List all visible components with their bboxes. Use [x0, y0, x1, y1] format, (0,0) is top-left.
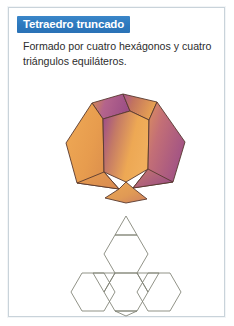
description-text: Formado por cuatro hexágonos y cuatro tr…	[23, 39, 215, 69]
face-hexagon-center	[103, 111, 149, 182]
net-triangle-left-upper	[93, 273, 115, 292]
net-hexagon-center	[104, 273, 148, 311]
truncated-tetrahedron-net-figure	[65, 214, 187, 318]
net-hexagon-right	[137, 273, 181, 311]
net-triangle-top	[115, 216, 137, 235]
page-title: Tetraedro truncado	[23, 19, 124, 31]
content-card: Tetraedro truncado Formado por cuatro he…	[8, 7, 225, 317]
title-banner: Tetraedro truncado	[17, 16, 130, 33]
net-hexagon-top	[104, 235, 148, 273]
truncated-tetrahedron-3d-svg	[51, 86, 201, 208]
truncated-tetrahedron-3d-figure	[51, 86, 201, 208]
truncated-tetrahedron-net-svg	[65, 214, 187, 318]
net-triangle-bottom	[115, 311, 137, 316]
net-triangle-right-upper	[137, 273, 159, 292]
net-hexagon-left	[71, 273, 115, 311]
page-root: Tetraedro truncado Formado por cuatro he…	[0, 0, 234, 326]
